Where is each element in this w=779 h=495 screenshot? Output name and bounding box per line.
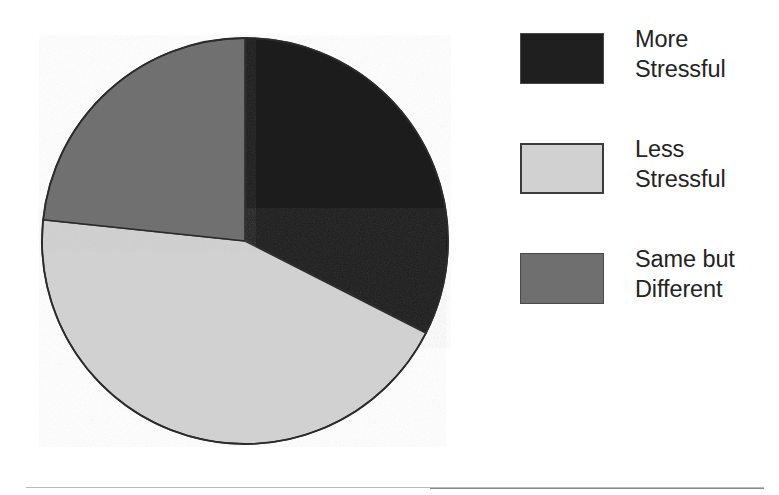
legend-swatch-less-stressful [520,143,604,194]
legend-label-more-stressful: More Stressful [635,24,779,84]
pie-slice-same-but-different[interactable] [43,38,245,241]
legend-item-less-stressful[interactable]: Less Stressful [518,138,773,248]
legend-item-same-but-different[interactable]: Same but Different [518,248,773,318]
chart-legend: More Stressful Less Stressful Same but D… [518,28,773,318]
legend-swatch-same-but-different [520,253,604,304]
legend-swatch-more-stressful [520,33,604,84]
page-divider-rule-dark [430,488,764,489]
pie-chart-plot-area [39,35,451,447]
pie-chart-figure: More Stressful Less Stressful Same but D… [0,0,779,495]
pie-chart-svg [39,35,451,447]
legend-label-less-stressful: Less Stressful [635,134,779,194]
legend-item-more-stressful[interactable]: More Stressful [518,28,773,138]
legend-label-same-but-different: Same but Different [635,244,779,304]
